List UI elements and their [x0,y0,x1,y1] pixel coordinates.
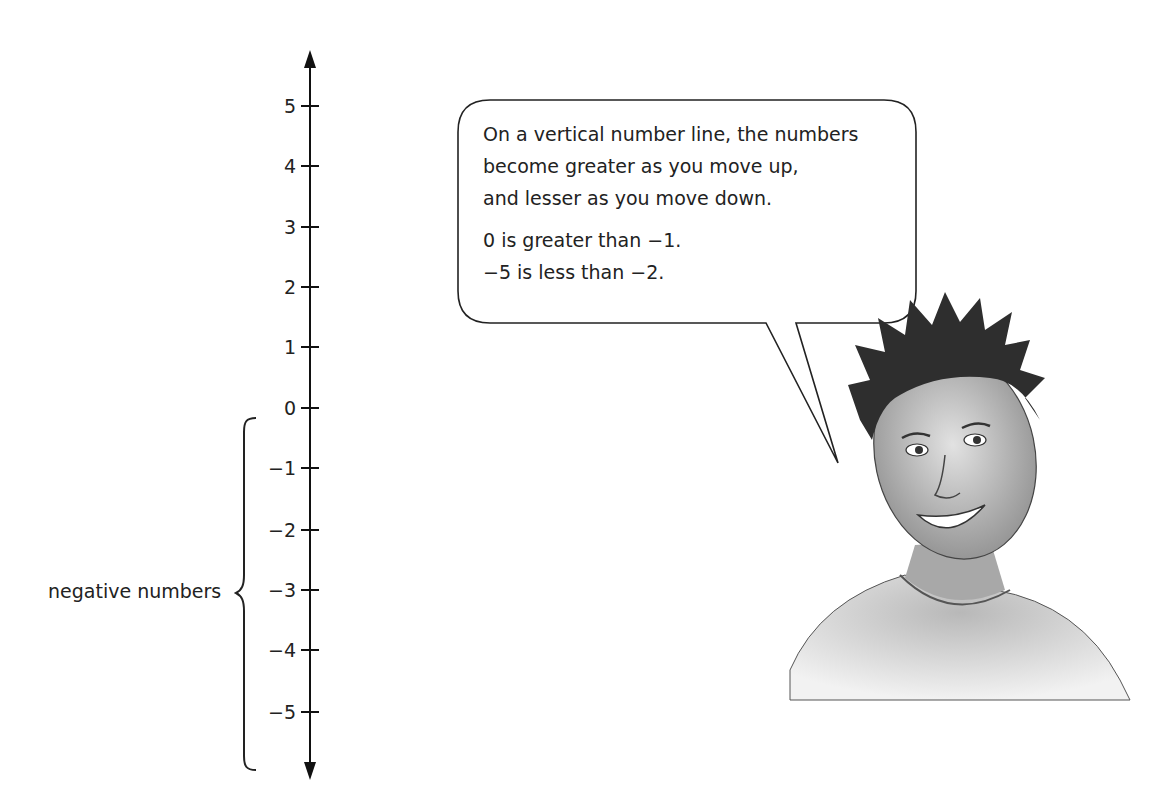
tick-label-neg4: −4 [236,640,296,660]
tick-label-neg3: −3 [236,580,296,600]
bubble-line-3: and lesser as you move down. [483,182,903,214]
tick-label-0: 0 [236,398,296,418]
boy-illustration [790,292,1130,700]
speech-bubble-text: On a vertical number line, the numbers b… [483,118,903,288]
tick-label-1: 1 [236,337,296,357]
tick-label-neg1: −1 [236,458,296,478]
number-line-diagram: 5 4 3 2 1 0 −1 −2 −3 −4 −5 negative numb… [0,0,1169,812]
bubble-line-2: become greater as you move up, [483,150,903,182]
negative-numbers-label: negative numbers [48,580,221,602]
arrow-up-icon [304,50,316,68]
tick-label-5: 5 [236,96,296,116]
bubble-line-1: On a vertical number line, the numbers [483,118,903,150]
tick-label-4: 4 [236,156,296,176]
tick-label-2: 2 [236,277,296,297]
tick-label-3: 3 [236,217,296,237]
arrow-down-icon [304,762,316,780]
tick-label-neg5: −5 [236,702,296,722]
tick-label-neg2: −2 [236,520,296,540]
bubble-example-1: 0 is greater than −1. [483,224,903,256]
bubble-example-2: −5 is less than −2. [483,256,903,288]
